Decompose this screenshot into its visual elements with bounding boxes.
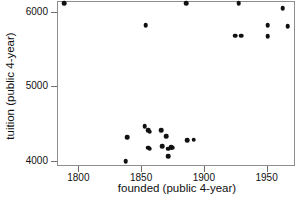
data-point bbox=[185, 138, 190, 143]
data-point bbox=[123, 159, 128, 164]
data-point bbox=[236, 1, 241, 6]
data-point bbox=[170, 146, 175, 151]
y-tick-label: 5000 bbox=[2, 81, 48, 91]
data-point bbox=[62, 1, 67, 6]
plot-area bbox=[57, 1, 295, 166]
data-point bbox=[239, 34, 244, 39]
data-points-layer bbox=[58, 2, 294, 165]
data-point bbox=[280, 6, 285, 11]
data-point bbox=[164, 134, 169, 139]
data-point bbox=[125, 135, 130, 140]
data-point bbox=[159, 128, 164, 133]
data-point bbox=[144, 23, 149, 28]
data-point bbox=[233, 34, 238, 39]
data-point bbox=[166, 154, 171, 159]
data-point bbox=[265, 23, 270, 28]
data-point bbox=[160, 144, 165, 149]
data-point bbox=[147, 146, 152, 151]
y-tick-label: 6000 bbox=[2, 7, 48, 17]
scatter-plot-figure: tuition (public 4-year) 6000 5000 4000 1… bbox=[0, 0, 297, 200]
y-tick-label: 4000 bbox=[2, 156, 48, 166]
data-point bbox=[184, 1, 189, 6]
data-point bbox=[285, 24, 290, 29]
data-point bbox=[265, 34, 270, 39]
x-axis-label: founded (public 4-year) bbox=[57, 181, 297, 195]
data-point bbox=[147, 129, 152, 134]
data-point bbox=[191, 137, 196, 142]
